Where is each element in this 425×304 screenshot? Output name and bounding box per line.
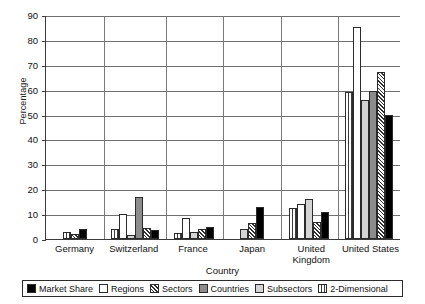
- legend-item-label: Regions: [111, 284, 144, 294]
- y-axis-tick-label: 0: [14, 235, 38, 245]
- legend-item[interactable]: Countries: [199, 284, 250, 294]
- bar-group: [166, 16, 224, 239]
- y-axis-tick-mark: [42, 240, 46, 241]
- bar: [182, 218, 190, 239]
- bar: [63, 232, 71, 239]
- bar: [190, 232, 198, 239]
- legend-item[interactable]: Regions: [99, 284, 144, 294]
- bar: [111, 229, 119, 239]
- y-axis-tick-label: 10: [14, 210, 38, 220]
- legend-swatch-icon: [199, 284, 208, 293]
- bar: [198, 229, 206, 239]
- bar: [305, 199, 313, 239]
- plot-area: 9080706050403020100: [45, 16, 400, 240]
- bar: [71, 234, 79, 239]
- bar: [206, 227, 214, 239]
- y-axis-tick-label: 30: [14, 160, 38, 170]
- bar: [240, 229, 248, 239]
- bar: [289, 208, 297, 239]
- bar-group: [281, 16, 339, 239]
- legend-swatch-icon: [255, 284, 264, 293]
- y-axis-tick-label: 70: [14, 61, 38, 71]
- bar-group: [223, 16, 281, 239]
- legend-item-label: Market Share: [39, 284, 93, 294]
- legend-item-label: Sectors: [162, 284, 193, 294]
- legend-swatch-icon: [318, 284, 327, 293]
- legend-swatch-icon: [27, 284, 36, 293]
- bar: [361, 100, 369, 239]
- y-axis-tick-label: 60: [14, 86, 38, 96]
- y-axis-tick-label: 80: [14, 36, 38, 46]
- legend-item-label: Subsectors: [267, 284, 312, 294]
- legend-item-label: Countries: [211, 284, 250, 294]
- bar: [345, 92, 353, 239]
- bar-group: [104, 16, 166, 239]
- y-axis-tick-label: 50: [14, 111, 38, 121]
- bar: [135, 197, 143, 239]
- bar: [174, 233, 182, 239]
- y-axis-tick-label: 90: [14, 11, 38, 21]
- bar: [321, 212, 329, 239]
- bar: [119, 214, 127, 239]
- x-axis-title: Country: [45, 265, 400, 276]
- legend-swatch-icon: [150, 284, 159, 293]
- bar: [313, 222, 321, 239]
- bar: [79, 229, 87, 239]
- legend-item[interactable]: Subsectors: [255, 284, 312, 294]
- bar-group: [46, 16, 104, 239]
- bar: [248, 223, 256, 239]
- y-axis-tick-label: 20: [14, 185, 38, 195]
- legend-item[interactable]: 2-Dimensional: [318, 284, 388, 294]
- bar: [151, 230, 159, 239]
- bar: [353, 27, 361, 239]
- bar-group: [338, 16, 400, 239]
- legend-item[interactable]: Sectors: [150, 284, 193, 294]
- bar: [127, 235, 135, 239]
- bar-chart: Percentage 9080706050403020100 GermanySw…: [0, 0, 425, 304]
- bar: [369, 91, 377, 239]
- bar: [143, 228, 151, 239]
- bar: [297, 204, 305, 239]
- bar: [385, 115, 393, 239]
- y-axis-tick-label: 40: [14, 135, 38, 145]
- bar: [256, 207, 264, 239]
- legend-item-label: 2-Dimensional: [330, 284, 388, 294]
- bar-groups: [46, 16, 400, 239]
- legend-swatch-icon: [99, 284, 108, 293]
- chart-legend: Market ShareRegionsSectorsCountriesSubse…: [22, 280, 403, 297]
- bar: [377, 72, 385, 239]
- legend-item[interactable]: Market Share: [27, 284, 93, 294]
